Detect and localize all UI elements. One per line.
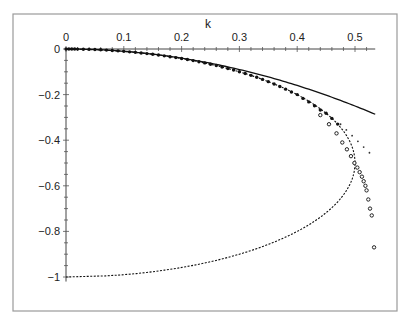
open-circle (349, 154, 352, 157)
open-circle (370, 214, 373, 217)
filled-dot (255, 76, 258, 79)
filled-dot (290, 90, 293, 93)
x-tick-label: 0.3 (232, 31, 247, 43)
open-circle (364, 184, 367, 187)
filled-dot (174, 56, 177, 59)
axes: 00.10.20.30.40.50−0.2−0.4−0.6−0.8−1 (38, 31, 375, 283)
filled-dot (116, 49, 119, 52)
y-tick-label: −1 (47, 271, 60, 283)
open-circle (365, 189, 368, 192)
filled-dot (122, 50, 125, 53)
filled-dot (180, 57, 183, 60)
filled-dot (128, 50, 131, 53)
open-circle (358, 170, 361, 173)
filled-dot (82, 48, 85, 51)
filled-dot (301, 97, 304, 100)
filled-dot (284, 87, 287, 90)
open-circle (360, 175, 363, 178)
filled-dot (163, 54, 166, 57)
small-dot (369, 152, 371, 154)
filled-dot (226, 67, 229, 70)
filled-dot (105, 48, 108, 51)
small-dot (363, 146, 365, 148)
chart-frame (13, 14, 397, 311)
filled-dot (87, 48, 90, 51)
small-dot (351, 135, 353, 137)
filled-dot (220, 65, 223, 68)
filled-dot (73, 47, 76, 50)
filled-dot (330, 117, 333, 120)
filled-dot (313, 104, 316, 107)
filled-dot (157, 53, 160, 56)
y-tick-label: −0.6 (38, 180, 60, 192)
filled-dot (272, 82, 275, 85)
x-axis-label: k (205, 17, 212, 31)
chart-canvas: 00.10.20.30.40.50−0.2−0.4−0.6−0.8−1 k (0, 0, 409, 322)
filled-dot (307, 100, 310, 103)
open-circle (367, 198, 370, 201)
filled-dot (336, 122, 339, 125)
x-tick-label: 0 (63, 31, 69, 43)
filled-dot (203, 61, 206, 64)
filled-dot (215, 64, 218, 67)
filled-dot (243, 72, 246, 75)
filled-dot (139, 51, 142, 54)
filled-dot (145, 52, 148, 55)
plot-area (64, 47, 375, 277)
small-dot (345, 129, 347, 131)
open-circle (335, 132, 338, 135)
filled-dot (319, 108, 322, 111)
filled-dot (93, 48, 96, 51)
small-dot (357, 140, 359, 142)
open-circle (327, 123, 330, 126)
y-tick-label: −0.4 (38, 134, 60, 146)
dashed-curve (66, 49, 355, 277)
filled-dot (111, 49, 114, 52)
open-circle (372, 246, 375, 249)
filled-dot (232, 68, 235, 71)
filled-dot (67, 47, 70, 50)
filled-dot (134, 51, 137, 54)
open-circle (319, 113, 322, 116)
filled-dot (186, 58, 189, 61)
filled-dot (261, 78, 264, 81)
x-tick-label: 0.5 (347, 31, 362, 43)
filled-dot (324, 112, 327, 115)
filled-dot (249, 74, 252, 77)
filled-dot (296, 93, 299, 96)
y-tick-label: −0.2 (38, 89, 60, 101)
filled-dot (151, 53, 154, 56)
filled-dot (99, 48, 102, 51)
filled-dot (278, 85, 281, 88)
open-circle (362, 180, 365, 183)
open-circle (345, 148, 348, 151)
open-circle (356, 166, 359, 169)
y-tick-label: 0 (54, 43, 60, 55)
filled-dot (76, 47, 79, 50)
y-tick-label: −0.8 (38, 225, 60, 237)
open-circle (368, 207, 371, 210)
filled-dot (209, 63, 212, 66)
filled-dot (197, 60, 200, 63)
filled-dot (238, 70, 241, 73)
x-tick-label: 0.1 (116, 31, 131, 43)
filled-dot (168, 55, 171, 58)
solid-curve (66, 49, 375, 114)
filled-dot (267, 80, 270, 83)
x-tick-label: 0.2 (174, 31, 189, 43)
filled-dot (191, 59, 194, 62)
filled-dot (64, 47, 67, 50)
filled-dot (70, 47, 73, 50)
small-dot (340, 123, 342, 125)
x-tick-label: 0.4 (290, 31, 305, 43)
open-circle (353, 161, 356, 164)
open-circle (341, 141, 344, 144)
